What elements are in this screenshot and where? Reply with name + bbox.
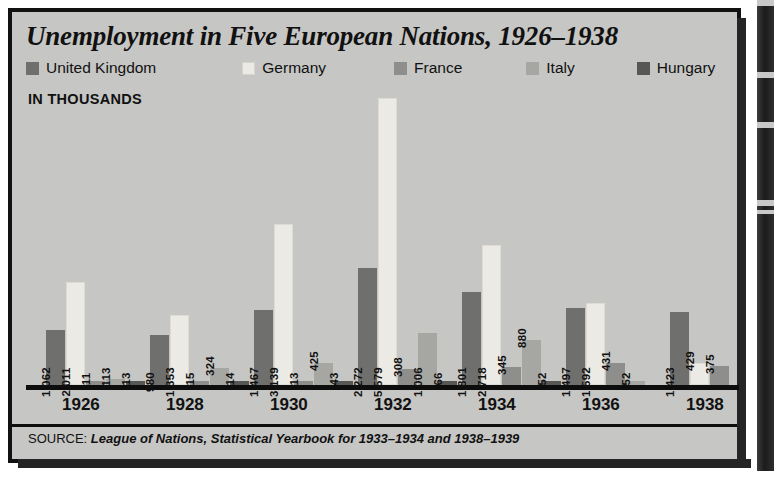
bar-value-label: 1,006 xyxy=(409,367,428,397)
bar-group-1928: 9801,3531532414 xyxy=(150,98,250,385)
bar-chart-plot: 1,0622,01111113139801,35315324141,4673,1… xyxy=(26,98,733,390)
bar-value-label: 52 xyxy=(617,372,636,385)
scan-edge-right xyxy=(757,0,774,485)
bar-group-1926: 1,0622,0111111313 xyxy=(46,98,146,385)
bar-value-label: 375 xyxy=(701,354,720,374)
legend-label-hungary: Hungary xyxy=(657,59,716,77)
bar-rect: 1,592 xyxy=(586,303,605,385)
bar-rect: 375 xyxy=(710,366,729,385)
bar-value-label: 429 xyxy=(681,351,700,371)
bar-rect: 3,139 xyxy=(274,224,293,385)
legend-item-hungary: Hungary xyxy=(637,59,716,77)
legend-swatch-united-kingdom xyxy=(26,62,39,75)
bar-group-1930: 1,4673,1391342543 xyxy=(254,98,354,385)
bar-rect: 2,011 xyxy=(66,282,85,385)
bar-rect: 15 xyxy=(190,381,209,385)
legend-swatch-france xyxy=(394,62,407,75)
legend-item-united-kingdom: United Kingdom xyxy=(26,59,156,77)
bar-value-label: 1,062 xyxy=(37,367,56,397)
bar-france-1934[interactable]: 345 xyxy=(502,367,521,385)
bar-value-label: 980 xyxy=(141,372,160,392)
bar-value-label: 66 xyxy=(429,372,448,385)
bar-italy-1936[interactable]: 52 xyxy=(626,381,645,385)
legend-label-united-kingdom: United Kingdom xyxy=(46,59,156,77)
legend-item-germany: Germany xyxy=(242,59,326,77)
bar-value-label: 14 xyxy=(221,372,240,385)
legend-item-italy: Italy xyxy=(526,59,574,77)
bar-rect: 345 xyxy=(502,367,521,385)
legend-label-italy: Italy xyxy=(546,59,574,77)
bar-value-label: 15 xyxy=(181,372,200,385)
bar-value-label: 2,718 xyxy=(473,367,492,397)
bar-value-label: 1,497 xyxy=(557,367,576,397)
bar-value-label: 1,801 xyxy=(453,367,472,397)
bar-france-1928[interactable]: 15 xyxy=(190,381,209,385)
bar-value-label: 52 xyxy=(533,372,552,385)
chart-legend: United Kingdom Germany France Italy Hung… xyxy=(26,59,726,77)
bar-rect: 5,579 xyxy=(378,98,397,385)
bar-value-label: 13 xyxy=(117,372,136,385)
x-axis-tick-labels: 1926192819301932193419361938 xyxy=(26,395,733,425)
x-tick-1936: 1936 xyxy=(582,395,620,415)
x-tick-1928: 1928 xyxy=(166,395,204,415)
bar-value-label: 2,272 xyxy=(349,367,368,397)
source-note: SOURCE: League of Nations, Statistical Y… xyxy=(28,431,519,446)
bar-value-label: 1,353 xyxy=(161,367,180,397)
bar-united-kingdom-1938[interactable]: 1,423 xyxy=(670,312,689,385)
bar-group-1932: 2,2725,5793081,00666 xyxy=(358,98,458,385)
bar-value-label: 13 xyxy=(285,372,304,385)
x-tick-1934: 1934 xyxy=(478,395,516,415)
bar-group-1938: 1,423429375 xyxy=(670,98,770,385)
axis-rule-divider xyxy=(12,424,737,427)
bar-value-label: 431 xyxy=(597,351,616,371)
bar-value-label: 3,139 xyxy=(265,367,284,397)
bar-value-label: 113 xyxy=(97,367,116,386)
bar-germany-1930[interactable]: 3,139 xyxy=(274,224,293,385)
bar-value-label: 324 xyxy=(201,356,220,376)
bar-value-label: 308 xyxy=(389,357,408,377)
x-tick-1926: 1926 xyxy=(62,395,100,415)
legend-label-germany: Germany xyxy=(262,59,326,77)
source-keyword: SOURCE: xyxy=(28,431,87,446)
source-text: League of Nations, Statistical Yearbook … xyxy=(91,431,519,446)
x-tick-1938: 1938 xyxy=(686,395,724,415)
bar-value-label: 43 xyxy=(325,372,344,385)
legend-swatch-italy xyxy=(526,62,539,75)
bar-group-1936: 1,4971,59243152 xyxy=(566,98,666,385)
bar-value-label: 345 xyxy=(493,355,512,375)
bar-france-1938[interactable]: 375 xyxy=(710,366,729,385)
bar-value-label: 1,592 xyxy=(577,367,596,397)
bar-france-1930[interactable]: 13 xyxy=(294,381,313,385)
bar-rect: 52 xyxy=(626,381,645,385)
bar-value-label: 2,011 xyxy=(57,367,76,396)
bar-germany-1936[interactable]: 1,592 xyxy=(586,303,605,385)
legend-label-france: France xyxy=(414,59,462,77)
bar-group-1934: 1,8012,71834588052 xyxy=(462,98,562,385)
legend-item-france: France xyxy=(394,59,462,77)
plot-area: 1,0622,01111113139801,35315324141,4673,1… xyxy=(26,98,733,390)
bar-germany-1926[interactable]: 2,011 xyxy=(66,282,85,385)
bar-value-label: 1,467 xyxy=(245,367,264,397)
bar-germany-1932[interactable]: 5,579 xyxy=(378,98,397,385)
x-tick-1930: 1930 xyxy=(270,395,308,415)
bar-value-label: 1,423 xyxy=(661,367,680,397)
legend-swatch-hungary xyxy=(637,62,650,75)
x-tick-1932: 1932 xyxy=(374,395,412,415)
bar-rect: 13 xyxy=(294,381,313,385)
legend-swatch-germany xyxy=(242,62,255,75)
bar-value-label: 11 xyxy=(77,373,96,386)
bar-value-label: 5,579 xyxy=(369,367,388,397)
scanned-page: Unemployment in Five European Nations, 1… xyxy=(0,0,774,485)
bar-rect: 1,423 xyxy=(670,312,689,385)
chart-card: Unemployment in Five European Nations, 1… xyxy=(8,8,741,463)
scan-edge-bottom xyxy=(0,471,774,485)
bar-value-label: 880 xyxy=(513,328,532,348)
bar-value-label: 425 xyxy=(305,351,324,371)
page-title: Unemployment in Five European Nations, 1… xyxy=(26,21,737,52)
